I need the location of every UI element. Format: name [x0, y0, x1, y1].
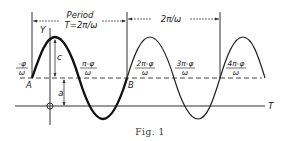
tick-neg-phi: -φ ω: [16, 59, 28, 77]
point-b-label: B: [128, 80, 134, 90]
tick-4pi-minus-phi: 4π-φ ω: [226, 59, 246, 77]
svg-text:2π-φ: 2π-φ: [137, 59, 154, 68]
sinusoid-diagram: T Y Period T=2π/ω 2π/ω c a A B -φ ω π-φ …: [0, 0, 302, 141]
svg-text:ω: ω: [233, 68, 239, 77]
svg-text:3π-φ: 3π-φ: [177, 59, 194, 68]
svg-text:4π-φ: 4π-φ: [228, 59, 245, 68]
tick-pi-minus-phi: π-φ ω: [80, 59, 97, 77]
period-label: Period: [67, 10, 94, 20]
period-formula: T=2π/ω: [65, 20, 98, 30]
svg-text:ω: ω: [19, 68, 25, 77]
svg-text:ω: ω: [182, 68, 188, 77]
svg-text:ω: ω: [85, 68, 91, 77]
y-axis-label: Y: [40, 25, 47, 35]
t-axis-label: T: [268, 101, 275, 111]
offset-label: a: [58, 88, 64, 98]
figure-caption: Fig. 1: [135, 127, 164, 137]
second-period-label: 2π/ω: [161, 14, 182, 24]
tick-2pi-minus-phi: 2π-φ ω: [135, 59, 155, 77]
tick-3pi-minus-phi: 3π-φ ω: [175, 59, 195, 77]
amplitude-label: c: [57, 52, 62, 62]
svg-text:π-φ: π-φ: [82, 59, 94, 68]
svg-text:-φ: -φ: [18, 59, 26, 68]
point-a-label: A: [25, 80, 32, 90]
svg-text:ω: ω: [142, 68, 148, 77]
